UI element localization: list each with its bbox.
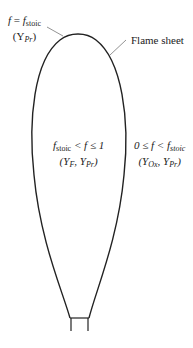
- label-oxidizer-side: 0 ≤ f < fstoic (YOx, YPr): [134, 139, 185, 171]
- flame-outline-graphic: [0, 0, 193, 348]
- flame-sheet-diagram: f = fstoic (YPr) Flame sheet fstoic < f …: [0, 0, 193, 348]
- flame-sheet-curve: [32, 34, 126, 318]
- leader-top: [47, 27, 63, 36]
- label-stoichiometric: f = fstoic (YPr): [8, 14, 41, 46]
- leader-flame-sheet: [110, 40, 126, 55]
- label-fuel-side: fstoic < f ≤ 1 (YF, YPr): [53, 139, 104, 171]
- label-flame-sheet: Flame sheet: [131, 34, 184, 46]
